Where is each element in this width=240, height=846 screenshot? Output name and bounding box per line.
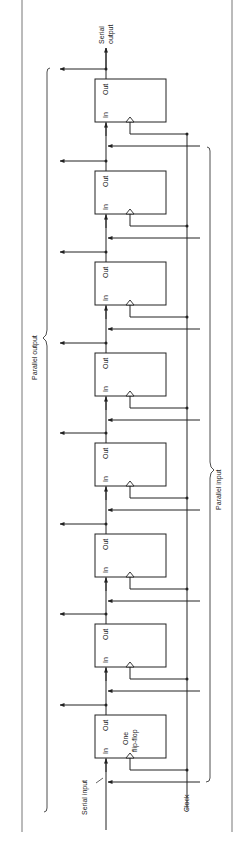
flip-flop-out-label: Out [102, 84, 109, 95]
flip-flop-out-label: Out [102, 267, 109, 278]
clock-junction-dot [186, 225, 189, 228]
clock-junction-dot [186, 316, 189, 319]
one-flip-flop-label-2: flip-flop [131, 729, 139, 752]
parallel-input-label: Parallel input [215, 469, 223, 510]
flip-flop-out-label: Out [102, 358, 109, 369]
clock-junction-dot [186, 133, 189, 136]
clock-junction-dot [186, 678, 189, 681]
one-flip-flop-label-1: One [122, 732, 129, 745]
flip-flop-out-label: Out [102, 629, 109, 640]
clock-junction-dot [186, 407, 189, 410]
clock-feed-line [130, 577, 187, 589]
clock-feed-line [130, 214, 187, 226]
serial-input-label: Serial input [81, 780, 89, 815]
flip-flop-in-label: In [102, 112, 109, 118]
clock-junction-dot [186, 769, 189, 772]
clock-feed-line [130, 667, 187, 679]
serial-output-label-1: Serial [98, 26, 105, 44]
clock-feed-line [130, 305, 187, 317]
clock-junction-dot [186, 497, 189, 500]
shift-register-diagram: InOutInOutInOutInOutInOutInOutInOutInOut… [0, 0, 240, 846]
flip-flop-in-label: In [102, 748, 109, 754]
clock-feed-line [130, 396, 187, 408]
flip-flop-in-label: In [102, 567, 109, 573]
flip-flop-in-label: In [102, 295, 109, 301]
flip-flop-out-label: Out [102, 539, 109, 550]
clock-feed-line [130, 486, 187, 498]
serial-input-pointer [96, 778, 103, 783]
parallel-output-label: Parallel output [31, 335, 39, 380]
clock-junction-dot [186, 588, 189, 591]
flip-flop-in-label: In [102, 386, 109, 392]
flip-flop-in-label: In [102, 476, 109, 482]
clock-feed-line [130, 122, 187, 134]
clock-label: Clock [183, 794, 190, 812]
flip-flop-out-label: Out [102, 176, 109, 187]
flip-flop-out-label: Out [102, 720, 109, 731]
flip-flop-in-label: In [102, 657, 109, 663]
flip-flop-out-label: Out [102, 448, 109, 459]
serial-output-label-2: output [107, 24, 115, 44]
flip-flop-in-label: In [102, 204, 109, 210]
clock-feed-line [130, 758, 187, 770]
parallel-output-brace [43, 68, 50, 812]
parallel-input-brace [206, 147, 214, 782]
